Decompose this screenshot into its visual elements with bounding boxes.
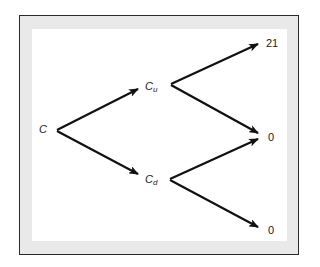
edge-root-up bbox=[57, 89, 138, 130]
edge-down-dd bbox=[170, 180, 258, 227]
node-dd-label: 0 bbox=[268, 225, 274, 236]
node-ud-label: 0 bbox=[268, 132, 274, 143]
node-down-text: C bbox=[145, 173, 153, 185]
node-uu-label: 21 bbox=[266, 38, 278, 49]
node-root-text: C bbox=[39, 123, 47, 135]
edge-up-ud bbox=[171, 85, 258, 133]
edge-up-uu bbox=[171, 44, 258, 84]
edge-root-down bbox=[57, 131, 138, 174]
node-down-subscript: d bbox=[153, 178, 157, 187]
node-up-subscript: u bbox=[153, 85, 157, 94]
node-up-text: C bbox=[145, 80, 153, 92]
node-down-label: Cd bbox=[145, 174, 157, 187]
node-root-label: C bbox=[39, 124, 47, 135]
edge-down-ud bbox=[170, 139, 258, 179]
node-up-label: Cu bbox=[145, 81, 157, 94]
